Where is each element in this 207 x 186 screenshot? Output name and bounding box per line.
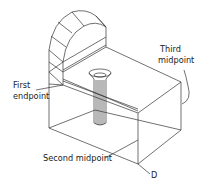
third-midpoint-label-line1: Third bbox=[159, 44, 181, 54]
first-endpoint-label-line1: First bbox=[13, 80, 31, 90]
point-d-label: D bbox=[151, 170, 157, 180]
wireframe-diagram: First endpoint Third midpoint Second mid… bbox=[0, 0, 207, 186]
third-midpoint-label-line2: midpoint bbox=[158, 55, 195, 65]
first-endpoint-label-line2: endpoint bbox=[13, 91, 50, 101]
second-midpoint-label: Second midpoint bbox=[43, 153, 113, 163]
countersunk-hole bbox=[89, 69, 111, 125]
arch-wall bbox=[49, 11, 106, 85]
